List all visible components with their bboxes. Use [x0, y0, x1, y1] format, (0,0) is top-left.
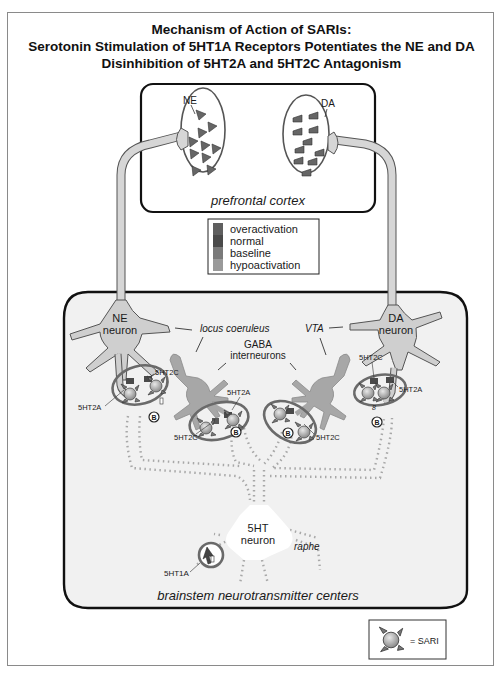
5ht-neuron-label-1: 5HT: [248, 522, 269, 534]
5ht-neuron-label-2: neuron: [241, 534, 275, 546]
da-label: DA: [321, 98, 335, 109]
gaba-left-5ht2a-label: 5HT2A: [227, 388, 250, 397]
5ht1a-label: 5HT1A: [164, 569, 190, 578]
gaba-label-2: interneurons: [230, 350, 286, 361]
prefrontal-label: prefrontal cortex: [210, 193, 305, 208]
svg-text:8: 8: [372, 404, 376, 411]
da-neuron-label-1: DA: [388, 312, 404, 324]
vta-label: VTA: [305, 323, 324, 334]
gaba-right-5ht2c-label: 5HT2C: [316, 433, 340, 442]
da-5ht2a-label: 5HT2A: [399, 385, 422, 394]
locus-coeruleus-label: locus coeruleus: [200, 323, 269, 334]
svg-text:B: B: [233, 429, 238, 436]
da-5ht2c-label: 5HT2C: [359, 353, 383, 362]
ne-neuron-label-1: NE: [112, 312, 127, 324]
sari-key: = SARI: [369, 620, 446, 659]
legend-overactivation: overactivation: [230, 223, 298, 235]
ne-neuron-label-2: neuron: [103, 324, 137, 336]
ne-5ht2a-label: 5HT2A: [78, 403, 101, 412]
legend-hypoactivation: hypoactivation: [230, 259, 300, 271]
gaba-label-1: GABA: [244, 339, 272, 350]
gaba-left-5ht2c-label: 5HT2C: [174, 433, 198, 442]
legend-baseline: baseline: [230, 247, 271, 259]
brainstem-label: brainstem neurotransmitter centers: [157, 588, 359, 603]
ne-label: NE: [183, 95, 197, 106]
svg-text:B: B: [151, 414, 156, 421]
legend-normal: normal: [230, 235, 264, 247]
raphe-label: raphe: [294, 541, 320, 552]
ne-5ht2c-label: 5HT2C: [155, 368, 179, 377]
diagram-canvas: prefrontal cortex NE: [0, 0, 503, 674]
activation-legend: overactivation normal baseline hypoactiv…: [208, 219, 319, 274]
svg-text:B: B: [285, 430, 290, 437]
da-neuron-label-2: neuron: [379, 324, 413, 336]
prefrontal-cortex-box: prefrontal cortex: [141, 84, 375, 212]
sari-key-label: = SARI: [410, 636, 439, 646]
svg-text:B: B: [374, 419, 379, 426]
